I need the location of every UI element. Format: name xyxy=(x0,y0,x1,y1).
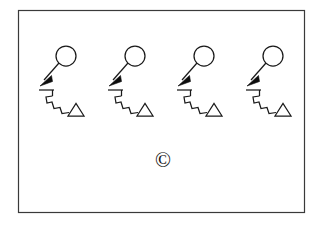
figure-canvas: © xyxy=(0,0,321,228)
diagram-svg: © xyxy=(0,0,321,228)
copyright-symbol: © xyxy=(155,148,171,172)
